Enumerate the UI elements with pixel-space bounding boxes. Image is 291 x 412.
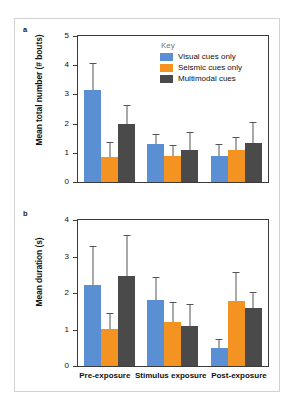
panel-a-letter: a [23,25,27,34]
error-bar-line [189,305,190,326]
bar-rect [245,143,262,182]
bar-rect [181,326,198,366]
error-bar-line [126,106,127,124]
error-bar-cap [89,246,96,247]
error-bar-cap [89,63,96,64]
error-bar-line [189,133,190,150]
bar-rect [101,329,118,366]
error-bar-cap [169,145,176,146]
error-bar-line [126,236,127,276]
x-axis-label-0: Pre-exposure [79,371,130,380]
bar-group-1 [147,220,198,366]
error-bar-cap [250,292,257,293]
bar-visual-cues-only-0 [84,36,101,182]
error-bar-line [92,247,93,285]
error-bar-cap [216,144,223,145]
bar-rect [211,348,228,366]
y-tick-label: 3 [55,89,69,98]
bar-group-0 [84,220,135,366]
panel-a: a Mean total number (# bouts) 012345 Key… [15,19,279,205]
bar-seismic-cues-only-0 [101,36,118,182]
error-bar-line [172,303,173,322]
panel-b-letter: b [23,209,28,218]
error-bar-line [109,143,110,157]
error-bar-line [155,135,156,144]
bar-rect [147,144,164,182]
bar-visual-cues-only-0 [84,220,101,366]
bar-rect [118,124,135,182]
legend-item-2: Multimodal cues [160,74,242,83]
bar-rect [228,150,245,182]
bar-multimodal-cues-2 [245,220,262,366]
error-bar-cap [186,304,193,305]
bar-rect [228,301,245,366]
error-bar-line [92,64,93,90]
legend-title: Key [161,41,242,50]
error-bar-cap [123,235,130,236]
error-bar-line [219,145,220,157]
bar-rect [118,276,135,366]
y-tick-label: 0 [55,177,69,186]
legend-swatch-icon [160,75,173,83]
bar-rect [84,285,101,366]
error-bar-cap [152,277,159,278]
error-bar-line [253,293,254,308]
panel-b-bars [78,220,268,366]
y-tick-label: 4 [55,60,69,69]
error-bar-line [155,278,156,300]
y-tick-label: 1 [55,148,69,157]
bar-visual-cues-only-1 [147,220,164,366]
error-bar-cap [186,132,193,133]
legend-item-1: Seismic cues only [160,63,242,72]
error-bar-cap [123,105,130,106]
bar-rect [101,157,118,182]
error-bar-line [236,273,237,301]
error-bar-line [109,314,110,329]
y-tick-label: 4 [55,215,69,224]
error-bar-cap [250,122,257,123]
chart-legend: Key Visual cues onlySeismic cues onlyMul… [160,41,242,85]
bar-seismic-cues-only-0 [101,220,118,366]
x-axis-label-1: Stimulus exposure [135,371,207,380]
error-bar-cap [169,302,176,303]
figure-container: a Mean total number (# bouts) 012345 Key… [14,18,280,392]
bar-visual-cues-only-2 [211,220,228,366]
bar-group-0 [84,36,135,182]
error-bar-cap [106,313,113,314]
legend-item-0: Visual cues only [160,52,242,61]
bar-rect [245,308,262,366]
bar-seismic-cues-only-1 [164,220,181,366]
error-bar-cap [233,272,240,273]
error-bar-cap [233,137,240,138]
bar-rect [147,300,164,366]
y-tick-label: 2 [55,288,69,297]
y-tick-label: 2 [55,119,69,128]
bar-seismic-cues-only-2 [228,220,245,366]
error-bar-line [219,340,220,347]
error-bar-cap [152,134,159,135]
legend-label: Visual cues only [178,52,236,61]
y-tick-label: 5 [55,31,69,40]
bar-multimodal-cues-0 [118,220,135,366]
legend-swatch-icon [160,64,173,72]
bar-rect [211,156,228,182]
y-tick-label: 3 [55,252,69,261]
error-bar-cap [106,142,113,143]
bar-rect [181,150,198,182]
error-bar-cap [216,339,223,340]
panel-b-y-axis-label: Mean duration (s) [34,202,44,342]
bar-group-2 [211,220,262,366]
x-axis-label-2: Post-exposure [211,371,267,380]
bar-rect [164,322,181,366]
bar-multimodal-cues-2 [245,36,262,182]
legend-label: Seismic cues only [178,63,242,72]
error-bar-line [253,123,254,143]
legend-label: Multimodal cues [178,74,236,83]
x-axis-labels: Pre-exposureStimulus exposurePost-exposu… [77,371,269,380]
error-bar-line [172,146,173,156]
legend-swatch-icon [160,53,173,61]
y-tick-label: 0 [55,361,69,370]
panel-b-plot-area [77,219,269,367]
bar-rect [84,90,101,182]
error-bar-line [236,138,237,150]
